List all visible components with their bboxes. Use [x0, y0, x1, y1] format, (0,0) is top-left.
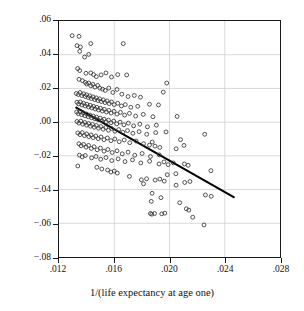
y-tick-label: −.06 [34, 219, 51, 229]
x-tick-mark [225, 258, 226, 263]
x-tick-label: .028 [256, 265, 304, 275]
x-tick-mark [58, 258, 59, 263]
x-tick-label: .016 [89, 265, 139, 275]
x-tick-mark [170, 258, 171, 263]
y-tick-label: .00 [39, 117, 51, 127]
y-tick-label: −.08 [34, 253, 51, 263]
scatter-plot-figure: Growth rate (unexplained part) .06.04.02… [0, 0, 304, 311]
x-tick-mark [281, 258, 282, 263]
y-tick-label: .02 [39, 83, 51, 93]
y-tick-label: .06 [39, 15, 51, 25]
y-tick-mark [53, 190, 58, 191]
y-tick-label: −.02 [34, 151, 51, 161]
data-points [59, 21, 280, 257]
y-tick-mark [53, 224, 58, 225]
x-axis-title: 1/(life expectancy at age one) [0, 288, 304, 299]
x-tick-label: .012 [33, 265, 83, 275]
y-tick-label: .04 [39, 49, 51, 59]
x-tick-mark [114, 258, 115, 263]
y-tick-mark [53, 54, 58, 55]
y-tick-mark [53, 20, 58, 21]
y-tick-label: −.04 [34, 185, 51, 195]
y-tick-mark [53, 122, 58, 123]
y-tick-mark [53, 156, 58, 157]
plot-area [58, 20, 281, 258]
x-tick-label: .024 [200, 265, 250, 275]
y-tick-mark [53, 88, 58, 89]
x-tick-label: .020 [145, 265, 195, 275]
